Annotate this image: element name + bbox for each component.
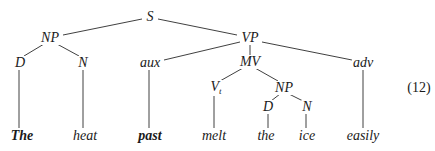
leaf-heat: heat (72, 129, 98, 143)
leaf-ice: ice (298, 129, 316, 143)
edge-s-np (63, 19, 142, 35)
node-s: S (146, 10, 155, 24)
edge-vp-adv (262, 42, 352, 60)
leaf-past: past (137, 129, 162, 143)
node-vt-subscript: t (219, 86, 222, 96)
edge-s-vp (158, 19, 237, 35)
node-aux: aux (139, 56, 161, 70)
node-vt-label: V (210, 79, 219, 94)
edge-np-d (24, 44, 44, 56)
node-n: N (77, 56, 88, 70)
node-np: NP (40, 31, 60, 45)
leaf-melt: melt (201, 129, 227, 143)
node-d: D (14, 56, 26, 70)
node-mv: MV (239, 55, 261, 69)
node-adv: adv (352, 56, 374, 70)
node-vt: Vt (209, 80, 222, 96)
node-n2: N (301, 100, 312, 114)
edge-np-n (57, 44, 79, 56)
leaf-the-2: the (256, 129, 275, 143)
leaf-easily: easily (346, 129, 381, 143)
leaf-the: The (10, 129, 35, 143)
edge-mv-vt (220, 68, 243, 81)
node-np2: NP (274, 81, 294, 95)
node-vp: VP (240, 31, 259, 45)
edge-vp-aux (164, 42, 240, 60)
equation-number: (12) (407, 80, 430, 96)
node-d2: D (262, 100, 274, 114)
